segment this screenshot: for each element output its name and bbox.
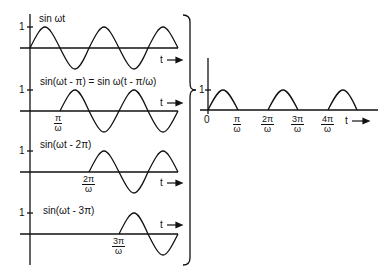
right-tick-3pi-den: ω (294, 125, 301, 134)
rectified-hump-2 (268, 90, 298, 110)
right-t-arrowhead-icon (363, 119, 369, 124)
panel3-label: sin(ωt - 2π) (40, 140, 91, 150)
panel4-t-arrowhead-icon (176, 223, 182, 228)
right-tick-3pi: 3π ω (291, 115, 304, 134)
panel2-start-marker: π ω (54, 114, 62, 133)
panel1-t-label: t (160, 55, 163, 65)
panel3-one-label: 1 (19, 146, 25, 156)
panel2-t-label: t (160, 98, 163, 108)
panel4-label: sin(ωt - 3π) (43, 206, 94, 216)
panel3-start-marker: 2π ω (82, 175, 95, 194)
right-tick-pi-den: ω (234, 125, 241, 134)
panel2-one-label: 1 (19, 85, 25, 95)
panel1-one-label: 1 (19, 22, 25, 32)
right-tick-4pi: 4π ω (321, 115, 334, 134)
panel2-start-den: ω (55, 124, 62, 133)
right-one-label: 1 (199, 85, 205, 95)
panel4-t-label: t (160, 220, 163, 230)
panel3-t-arrowhead-icon (176, 181, 182, 186)
panel1-t-arrowhead-icon (176, 58, 182, 63)
right-origin-label: 0 (204, 115, 210, 125)
panel2-label: sin(ωt - π) = sin ω(t - π/ω) (40, 77, 156, 87)
panel2-t-arrowhead-icon (176, 101, 182, 106)
right-t-label: t (345, 116, 348, 126)
panel4-start-den: ω (115, 247, 122, 256)
rectified-hump-1 (208, 90, 238, 110)
panel3-start-den: ω (85, 185, 92, 194)
panel3-t-label: t (160, 178, 163, 188)
right-tick-2pi-den: ω (264, 125, 271, 134)
panel1-label: sin ωt (39, 14, 65, 24)
right-tick-4pi-den: ω (324, 125, 331, 134)
right-tick-2pi: 2π ω (261, 115, 274, 134)
panel4-one-label: 1 (19, 208, 25, 218)
right-brace (183, 15, 196, 265)
panel4-start-marker: 3π ω (112, 237, 125, 256)
right-tick-pi: π ω (233, 115, 241, 134)
rectified-hump-3 (328, 90, 357, 110)
